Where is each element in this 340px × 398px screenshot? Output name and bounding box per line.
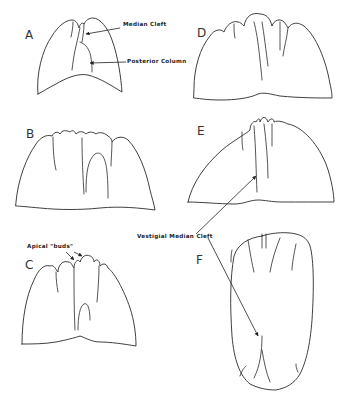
panel-label-e: E [197, 125, 205, 137]
vestigial-cleft-leader-e [196, 176, 256, 234]
panel-label-b: B [26, 128, 34, 140]
vestigial-median-cleft-label: Vestigial Median Cleft [137, 234, 213, 240]
panel-label-f: F [196, 254, 203, 266]
panel-a-drawing [38, 18, 122, 94]
anatomical-figure: A B C D E F Median Cleft Posterior Colum… [0, 0, 340, 398]
panel-label-d: D [197, 27, 206, 39]
apical-buds-leader-1 [66, 252, 74, 260]
apical-buds-leader-2 [74, 252, 82, 256]
posterior-column-label: Posterior Column [127, 59, 186, 65]
median-cleft-label: Median Cleft [123, 22, 167, 28]
panel-f-drawing [231, 233, 314, 390]
panel-label-c: C [25, 259, 33, 271]
panel-label-a: A [25, 29, 33, 41]
median-cleft-leader [86, 28, 120, 34]
posterior-column-leader [90, 62, 126, 63]
panel-b-drawing [16, 131, 155, 210]
panel-e-drawing [188, 118, 334, 205]
panel-d-drawing [194, 14, 332, 101]
panel-c-drawing [22, 255, 136, 346]
apical-buds-label: Apical "buds" [27, 244, 73, 250]
